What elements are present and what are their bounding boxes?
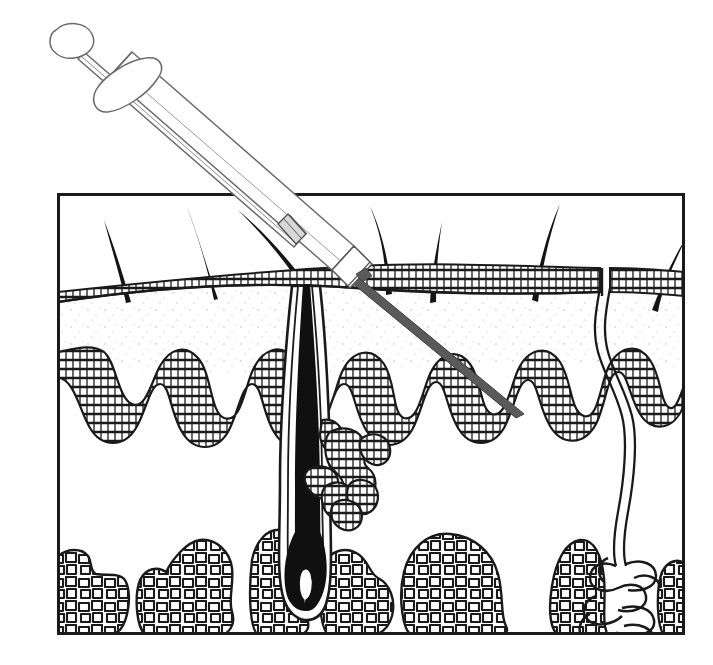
sebaceous-lobe-bottom xyxy=(331,500,362,530)
skin-injection-diagram xyxy=(0,0,713,665)
plunger-thumb-disc[interactable] xyxy=(50,24,94,59)
hair-follicle xyxy=(279,284,331,620)
illustration-canvas xyxy=(0,0,713,665)
stratum-corneum-right-segment xyxy=(610,268,684,296)
fat-lobule-7 xyxy=(658,561,684,636)
